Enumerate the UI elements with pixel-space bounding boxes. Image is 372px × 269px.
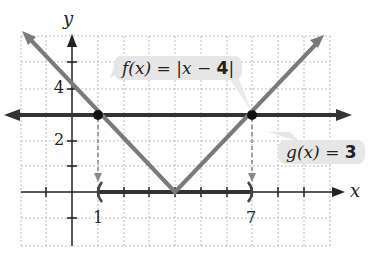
x-axis-label: x <box>350 180 360 201</box>
callout-f-text: f(x) = |x − <box>122 58 217 78</box>
x-tick-label-1: 1 <box>93 208 103 227</box>
arrow-down-icon <box>94 173 102 182</box>
y-axis <box>67 34 77 246</box>
g-line <box>4 109 352 121</box>
callout-f-suffix: | <box>228 58 234 78</box>
intersection-point <box>93 110 103 120</box>
arrow-down-icon <box>248 173 256 182</box>
x-tick-label-7: 7 <box>246 208 256 227</box>
callout-g-num: 3 <box>345 142 357 162</box>
y-axis-label: y <box>63 8 73 29</box>
callout-f: f(x) = |x − 4| <box>114 56 242 80</box>
y-tick-label-4: 4 <box>54 78 64 97</box>
y-tick-label-2: 2 <box>54 130 64 149</box>
callout-f-num: 4 <box>217 58 229 78</box>
callout-g: g(x) = 3 <box>278 140 365 164</box>
intersection-point <box>247 110 257 120</box>
drop-lines <box>98 118 252 176</box>
callout-g-text: g(x) = <box>286 142 345 162</box>
